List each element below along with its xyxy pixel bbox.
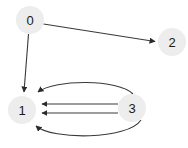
graph-node-0[interactable]: 0 — [16, 6, 44, 34]
node-2-label: 2 — [168, 35, 175, 50]
node-1-label: 1 — [18, 103, 25, 118]
edge-3-to-1-curve-below — [36, 120, 141, 136]
node-layer: 0 2 1 3 — [8, 6, 186, 124]
graph-node-2[interactable]: 2 — [158, 28, 186, 56]
edge-0-to-2 — [44, 24, 156, 42]
node-0-label: 0 — [26, 13, 33, 28]
graph-node-3[interactable]: 3 — [118, 94, 146, 122]
directed-graph-diagram: 0 2 1 3 — [0, 0, 188, 148]
edge-3-to-1-curve-above — [38, 82, 133, 94]
edge-0-to-1 — [24, 34, 29, 92]
node-3-label: 3 — [128, 101, 135, 116]
graph-node-1[interactable]: 1 — [8, 96, 36, 124]
